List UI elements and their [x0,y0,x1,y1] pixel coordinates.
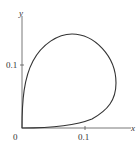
y-tick-label: 0.1 [6,60,17,70]
x-tick-label: 0.1 [78,132,89,142]
y-axis-label: y [18,8,23,18]
x-axis-label: x [130,123,135,133]
origin-label: 0 [13,132,18,142]
chart: y x 0 0.1 0.1 [0,0,140,147]
loop-curve [22,34,116,128]
